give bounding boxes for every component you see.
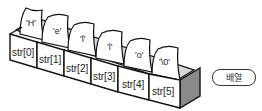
char-value-4: 'o' [135,50,144,60]
char-value-2: 'l' [80,34,86,44]
char-value-5: '\0' [159,57,170,67]
char-value-1: 'e' [53,26,62,36]
index-label-1: str[1] [39,54,61,65]
char-card-2: 'l' [68,23,96,56]
index-label-3: str[3] [93,71,115,82]
array-legend-label: 배열 [212,69,256,86]
index-label-0: str[0] [12,47,34,58]
index-label-4: str[4] [122,79,144,90]
char-card-0: 'H' [20,8,44,40]
char-card-4: 'o' [124,39,152,72]
index-label-5: str[5] [152,86,174,97]
char-value-3: 'l' [107,42,113,52]
char-value-0: 'H' [26,18,36,28]
char-array-diagram: 'H' 'e' 'l' 'l' 'o' '\0' str[0] str[1] s… [0,0,262,111]
index-label-2: str[2] [66,63,88,74]
char-card-3: 'l' [96,31,124,64]
char-card-1: 'e' [42,15,70,48]
